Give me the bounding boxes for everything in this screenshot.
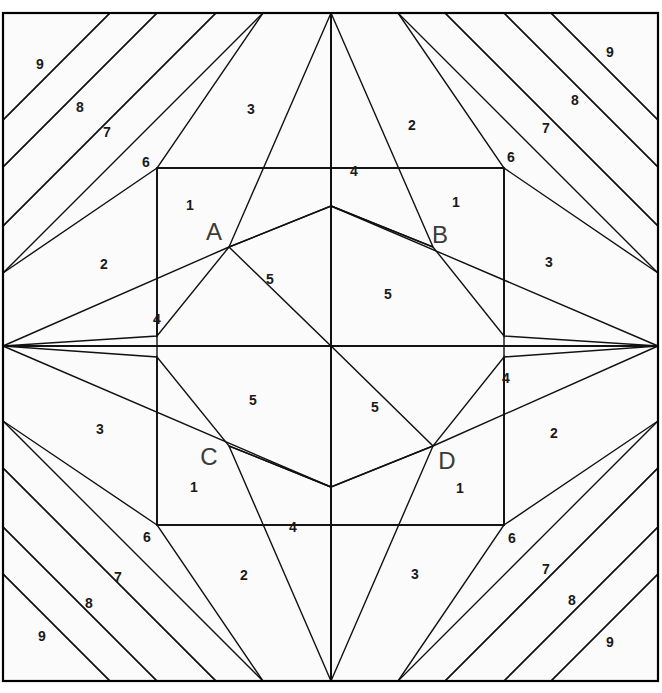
piece-number-label: 9 — [38, 628, 46, 644]
section-letter-label-b: B — [432, 221, 448, 248]
piece-number-label: 3 — [96, 421, 104, 437]
piece-number-label: 1 — [456, 480, 464, 496]
piece-number-label: 4 — [153, 311, 161, 327]
piece-number-label: 4 — [502, 370, 510, 386]
piece-number-label: 6 — [507, 149, 515, 165]
piece-number-label: 6 — [508, 530, 516, 546]
piece-number-label: 3 — [411, 566, 419, 582]
piece-number-label: 9 — [606, 44, 614, 60]
piece-number-label: 2 — [550, 425, 558, 441]
piece-number-label: 8 — [571, 92, 579, 108]
section-letter-label-d: D — [438, 447, 455, 474]
piece-number-label: 9 — [606, 634, 614, 650]
piece-number-label: 8 — [568, 592, 576, 608]
piece-number-label: 5 — [384, 286, 392, 302]
piece-number-label: 6 — [143, 529, 151, 545]
piece-number-label: 7 — [542, 561, 550, 577]
quilt-block-diagram: 987631245987624135351678924542167893 ABC… — [0, 0, 662, 693]
piece-number-label: 2 — [408, 117, 416, 133]
piece-number-label: 1 — [452, 194, 460, 210]
piece-number-label: 5 — [371, 399, 379, 415]
quilt-svg: 987631245987624135351678924542167893 ABC… — [0, 0, 662, 693]
section-letter-label-a: A — [206, 218, 222, 245]
piece-number-label: 2 — [100, 256, 108, 272]
piece-number-label: 1 — [186, 197, 194, 213]
piece-number-label: 1 — [190, 479, 198, 495]
piece-number-label: 6 — [142, 154, 150, 170]
piece-number-label: 4 — [350, 163, 358, 179]
piece-number-label: 5 — [266, 271, 274, 287]
piece-number-label: 9 — [36, 56, 44, 72]
piece-number-label: 7 — [114, 569, 122, 585]
piece-number-label: 5 — [249, 392, 257, 408]
piece-number-label: 8 — [76, 99, 84, 115]
piece-number-label: 3 — [247, 101, 255, 117]
piece-number-label: 8 — [85, 595, 93, 611]
piece-number-label: 4 — [289, 519, 297, 535]
piece-number-label: 7 — [103, 124, 111, 140]
piece-number-label: 3 — [545, 254, 553, 270]
piece-number-label: 2 — [240, 567, 248, 583]
piece-number-label: 7 — [542, 120, 550, 136]
section-letter-label-c: C — [200, 443, 217, 470]
